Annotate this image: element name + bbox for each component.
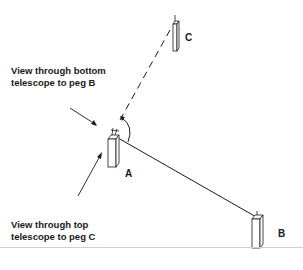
- arrowhead-top: [97, 152, 102, 159]
- bottom-divider: [0, 247, 303, 248]
- peg-b: [252, 211, 263, 248]
- arrow-top-telescope: [78, 156, 100, 196]
- line-a-to-b: [118, 138, 258, 218]
- arrow-bottom-telescope: [70, 108, 95, 124]
- peg-c: [173, 15, 179, 51]
- peg-b-label: B: [278, 228, 285, 239]
- label-line-1: View through bottom: [11, 65, 106, 77]
- peg-c-label: C: [185, 32, 192, 43]
- label-top-telescope: View through top telescope to peg C: [11, 219, 95, 243]
- label-line-2: telescope to peg C: [11, 231, 95, 243]
- angle-arc: [122, 118, 130, 142]
- label-line-1: View through top: [11, 219, 95, 231]
- label-line-2: telescope to peg B: [11, 77, 106, 89]
- line-a-to-c: [120, 30, 170, 120]
- peg-a: [108, 128, 119, 167]
- arrowhead-bottom: [91, 120, 97, 126]
- peg-a-label: A: [125, 168, 132, 179]
- label-bottom-telescope: View through bottom telescope to peg B: [11, 65, 106, 89]
